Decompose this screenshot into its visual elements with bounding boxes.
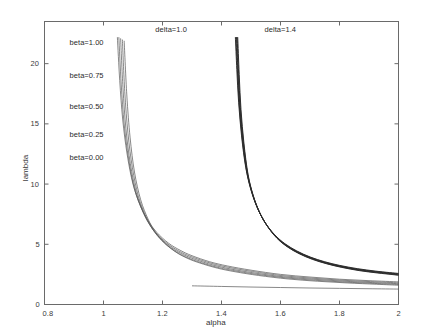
curve-line [235,37,398,273]
x-tick-label: 0.8 [43,309,54,318]
y-tick-label: 20 [31,59,40,68]
curve-line [236,37,399,274]
beta-legend-label: beta=0.25 [70,130,104,139]
y-axis-title-wrap: lambda [18,140,32,196]
x-tick-label: 1.4 [216,309,227,318]
x-tick-label: 2 [397,309,401,318]
curve-line [237,37,398,275]
curve-line [122,40,398,285]
beta-legend-label: beta=1.00 [70,38,104,47]
y-tick-label: 15 [31,119,40,128]
figure-canvas: 0.811.21.41.61.82 05101520 delta=1.0delt… [0,0,424,335]
x-tick-label: 1.2 [157,309,168,318]
x-tick-label: 1 [102,309,106,318]
x-tick-label: 1.8 [334,309,345,318]
curve-line [192,286,399,289]
y-tick-label: 0 [36,300,40,309]
curve-line [121,38,399,283]
y-axis-title: lambda [21,155,30,181]
beta-legend-label: beta=0.75 [70,71,104,80]
x-tick-label: 1.6 [275,309,286,318]
delta-annotation: delta=1.0 [155,25,187,34]
axes-frame [45,22,399,305]
curve-series [117,37,398,289]
curve-line [238,37,399,275]
beta-legend-label: beta=0.00 [70,153,104,162]
y-tick-label: 5 [36,240,40,249]
curve-line [124,41,398,285]
curve-line [237,37,399,274]
axis-ticks [45,22,399,305]
delta-annotation: delta=1.4 [265,25,297,34]
curve-line [117,37,398,282]
curve-line [119,37,399,283]
plot-area [0,0,424,335]
x-axis-title: alpha [206,318,226,327]
beta-legend-label: beta=0.50 [70,102,104,111]
